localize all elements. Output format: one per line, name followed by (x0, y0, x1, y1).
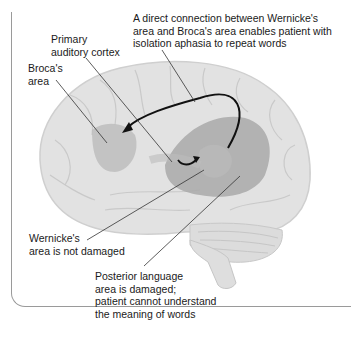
label-connection: A direct connection between Wernicke's a… (133, 12, 332, 50)
label-posterior-language-area: Posterior language area is damaged; pati… (95, 270, 216, 320)
label-broca-area: Broca's area (28, 62, 63, 87)
label-primary-auditory-cortex: Primary auditory cortex (51, 33, 120, 58)
label-wernicke-area: Wernicke's area is not damaged (29, 232, 125, 257)
